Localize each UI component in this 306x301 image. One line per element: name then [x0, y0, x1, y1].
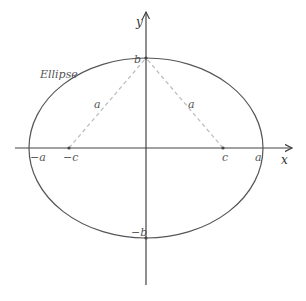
curve-label: Ellipse	[39, 68, 78, 81]
point-b	[144, 56, 147, 59]
label-b: b	[134, 53, 141, 66]
point-neg-c	[67, 146, 70, 149]
label-neg-b: −b	[131, 226, 147, 239]
dashed-segment-right	[146, 58, 223, 148]
dashed-segment-left	[69, 58, 146, 148]
label-c: c	[222, 151, 228, 164]
label-neg-c: −c	[63, 151, 78, 164]
x-axis-label: x	[281, 153, 288, 167]
label-neg-a: −a	[30, 151, 46, 164]
segment-label-right: a	[188, 98, 195, 111]
point-c	[221, 146, 224, 149]
segment-label-left: a	[94, 98, 101, 111]
y-axis-label: y	[135, 15, 143, 29]
label-a: a	[255, 151, 262, 164]
ellipse-diagram: Ellipse y x b −b −a −c c a a a	[0, 0, 306, 301]
